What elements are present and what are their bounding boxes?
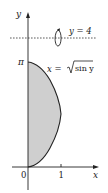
y-axis-arrow-icon [26, 12, 30, 18]
x-axis-label: x [93, 170, 98, 180]
curve-label-lhs: x = [47, 64, 64, 74]
y-tick-label-pi: π [17, 57, 25, 67]
y-axis-label: y [15, 9, 22, 19]
x-tick-label-1: 1 [59, 170, 64, 180]
rotation-axis-label: y = 4 [68, 26, 92, 36]
x-axis-arrow-icon [93, 165, 99, 169]
diagram: y x 0 1 π y = 4 x = sin y [0, 0, 108, 193]
origin-label: 0 [21, 170, 26, 180]
curve-label-radicand: sin y [75, 64, 94, 73]
shaded-region [28, 62, 61, 167]
curve-label: x = sin y [47, 61, 94, 74]
rotation-arrow-icon [55, 28, 61, 46]
